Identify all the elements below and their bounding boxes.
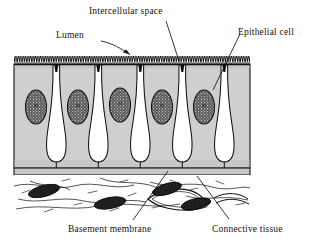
intercellular-space-leader	[166, 21, 179, 61]
figure-canvas: Intercellular space Lumen Epithelial cel…	[0, 0, 315, 239]
label-connective-tissue: Connective tissue	[212, 224, 283, 234]
connective-tissue	[14, 175, 250, 215]
basement-membrane	[14, 168, 250, 175]
label-basement-membrane: Basement membrane	[68, 224, 151, 234]
label-lumen: Lumen	[56, 30, 84, 40]
label-epithelial-cell: Epithelial cell	[238, 27, 294, 37]
label-intercellular-space: Intercellular space	[89, 6, 163, 16]
brush-border-microvilli	[14, 56, 250, 65]
